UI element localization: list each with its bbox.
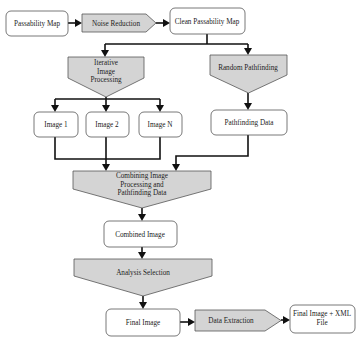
node-label: Image [97, 68, 115, 76]
node-label: Pathfinding Data [225, 119, 275, 127]
node-image-n: Image N [139, 112, 182, 137]
node-random-pathfinding: Random Pathfinding [210, 55, 287, 93]
node-label: Passability Map [14, 20, 61, 28]
node-combined-image: Combined Image [104, 221, 177, 247]
arrowhead-icon [138, 252, 146, 259]
arrowhead-icon [102, 164, 110, 171]
node-image-2: Image 2 [86, 112, 129, 137]
node-label: Data Extraction [208, 317, 254, 325]
arrowhead-icon [75, 19, 82, 27]
node-analysis-selection: Analysis Selection [74, 259, 212, 296]
node-label: Iterative [94, 59, 118, 67]
flowchart: Passability MapNoise ReductionClean Pass… [0, 0, 360, 340]
connector [55, 137, 160, 159]
arrowhead-icon [244, 48, 252, 55]
node-clean-passability-map: Clean Passability Map [170, 8, 245, 34]
node-iterative-image-processing: IterativeImageProcessing [68, 57, 144, 97]
arrowhead-icon [138, 214, 146, 221]
node-label: Processing [90, 76, 122, 84]
node-label: Combining Image [116, 172, 168, 180]
arrowhead-icon [172, 164, 180, 171]
arrowhead-icon [101, 50, 109, 57]
connector [176, 135, 248, 164]
node-label: Final Image [126, 319, 161, 327]
node-label: Image 1 [44, 121, 68, 129]
node-final-image-xml: Final Image + XMLFile [290, 305, 355, 333]
node-combining: Combining ImageProcessing andPathfinding… [73, 171, 211, 208]
process-shape [74, 259, 212, 296]
node-label: Combined Image [115, 231, 165, 239]
node-data-extraction: Data Extraction [195, 310, 281, 331]
node-label: Processing and [120, 181, 164, 189]
node-label: File [316, 319, 327, 327]
node-passability-map: Passability Map [6, 11, 68, 36]
node-pathfinding-data: Pathfinding Data [211, 110, 287, 135]
node-label: Image N [148, 121, 174, 129]
node-final-image: Final Image [106, 309, 180, 336]
arrowhead-icon [139, 302, 147, 309]
arrowhead-icon [156, 105, 164, 112]
arrowhead-icon [283, 316, 290, 324]
node-label: Pathfinding Data [118, 189, 168, 197]
nodes: Passability MapNoise ReductionClean Pass… [6, 8, 355, 336]
process-shape [210, 55, 287, 93]
arrowhead-icon [51, 105, 59, 112]
arrowhead-icon [244, 103, 252, 110]
node-label: Image 2 [95, 121, 119, 129]
arrowhead-icon [163, 19, 170, 27]
node-label: Final Image + XML [293, 310, 351, 318]
arrowhead-icon [188, 318, 195, 326]
arrowhead-icon [102, 105, 110, 112]
node-label: Noise Reduction [92, 20, 141, 28]
node-label: Analysis Selection [116, 269, 170, 277]
node-label: Random Pathfinding [218, 64, 278, 72]
node-noise-reduction: Noise Reduction [82, 14, 156, 32]
node-label: Clean Passability Map [175, 18, 240, 26]
node-image-1: Image 1 [34, 112, 78, 137]
